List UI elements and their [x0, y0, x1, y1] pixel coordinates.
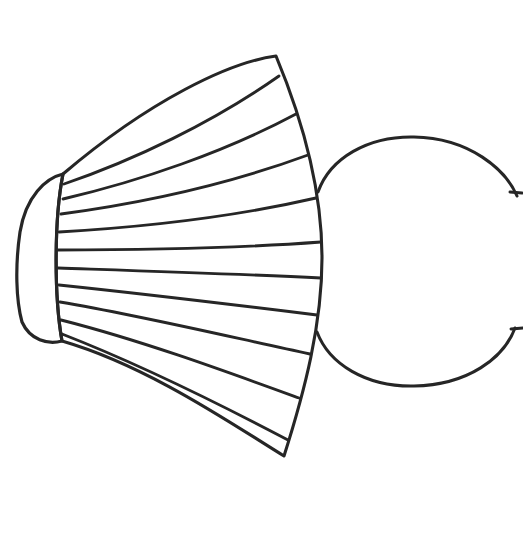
drawing-canvas [0, 0, 523, 556]
circle-tick-lower-icon [511, 328, 523, 329]
line-art-illustration [0, 0, 523, 556]
circle-tick-upper-icon [510, 192, 522, 193]
background [0, 0, 523, 556]
